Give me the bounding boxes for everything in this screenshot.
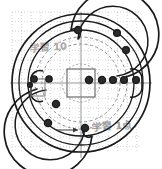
marker-dot (74, 26, 81, 33)
technical-drawing: 学習 10 学習 1点 (0, 0, 162, 169)
marker-dot (121, 77, 128, 84)
marker-dot (46, 76, 52, 82)
marker-dot (81, 124, 88, 131)
marker-dot (123, 47, 130, 54)
marker-dot (133, 77, 140, 84)
marker-dot (110, 77, 117, 84)
marker-dot (85, 76, 92, 83)
marker-dot (44, 119, 51, 126)
marker-dot (52, 100, 59, 107)
marker-dot (98, 76, 105, 83)
diagram-canvas: 学習 10 学習 1点 (0, 0, 162, 169)
marker-dot (31, 76, 37, 82)
marker-dot (28, 83, 33, 88)
marker-dot (114, 30, 121, 37)
